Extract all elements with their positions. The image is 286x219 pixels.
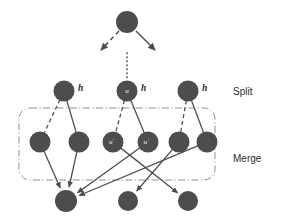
node-circle-s1[interactable] <box>54 81 75 102</box>
node-m3[interactable]: u- <box>103 132 124 153</box>
node-outer-label-s3: h <box>202 83 207 93</box>
node-outer-label-s1: h <box>78 83 83 93</box>
node-b1[interactable] <box>55 190 77 212</box>
node-m5[interactable] <box>169 132 190 153</box>
node-circle-root[interactable] <box>116 11 138 33</box>
split-edge-s1-m1 <box>44 100 60 134</box>
node-outer-label-s2: h <box>141 83 146 93</box>
node-s2[interactable]: uh <box>117 81 147 102</box>
node-circle-b2[interactable] <box>118 191 138 211</box>
node-s3[interactable]: h <box>178 81 208 102</box>
merge-edge-m3-b3 <box>120 148 177 193</box>
region-label-split: Split <box>233 86 253 97</box>
merge-edge-m2-b1 <box>69 151 77 187</box>
node-circle-s3[interactable] <box>178 81 199 102</box>
node-m6[interactable] <box>197 132 218 153</box>
node-circle-m5[interactable] <box>169 132 190 153</box>
merge-edge-m4-b1 <box>78 148 141 193</box>
node-circle-m2[interactable] <box>69 132 90 153</box>
split-edge-s3-m6 <box>191 100 203 133</box>
node-root[interactable] <box>116 11 138 33</box>
split-edge-s3-m5 <box>181 100 187 132</box>
graph-svg: huhhu-u+ SplitMerge <box>0 0 286 219</box>
region-labels-layer: SplitMerge <box>233 86 262 164</box>
node-b3[interactable] <box>178 191 198 211</box>
root-arrow-left <box>101 31 119 50</box>
node-s1[interactable]: h <box>54 81 84 102</box>
split-edge-s2-m3 <box>116 100 125 133</box>
region-label-merge: Merge <box>233 153 262 164</box>
diagram-canvas: huhhu-u+ SplitMerge <box>0 0 286 219</box>
node-m2[interactable] <box>69 132 90 153</box>
node-m4[interactable]: u+ <box>138 132 159 153</box>
edges-layer <box>44 31 204 196</box>
node-inner-label-s2: u <box>125 87 129 95</box>
node-circle-b3[interactable] <box>178 191 198 211</box>
node-circle-m1[interactable] <box>30 132 51 153</box>
node-m1[interactable] <box>30 132 51 153</box>
node-circle-m6[interactable] <box>197 132 218 153</box>
split-edge-s2-m4 <box>131 100 145 133</box>
merge-edge-m1-b1 <box>44 151 60 188</box>
node-circle-b1[interactable] <box>55 190 77 212</box>
root-arrow-right <box>136 31 155 50</box>
split-edge-s1-m2 <box>67 100 77 133</box>
node-b2[interactable] <box>118 191 138 211</box>
